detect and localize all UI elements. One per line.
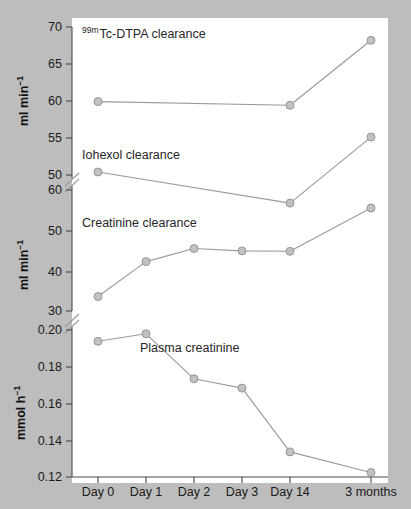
data-point bbox=[190, 245, 198, 253]
data-point bbox=[94, 293, 102, 301]
x-tick-day-3: Day 3 bbox=[226, 485, 259, 499]
data-point bbox=[94, 168, 102, 176]
data-point bbox=[367, 469, 375, 477]
y-ticks-bottom: 0.20 0.18 0.16 0.14 0.12 bbox=[38, 323, 72, 484]
y-tick-top-50: 50 bbox=[48, 168, 62, 182]
series-label-tc-dtpa: 99mTc-DTPA clearance bbox=[82, 25, 206, 41]
y-tick-top-60: 60 bbox=[48, 94, 62, 108]
y-axis-title-bottom: mmol h−1 bbox=[12, 386, 28, 440]
x-tick-day-2: Day 2 bbox=[178, 485, 211, 499]
series-label-creatinine-clearance: Creatinine clearance bbox=[82, 216, 197, 230]
y-ticks-middle: 60 50 40 30 bbox=[48, 183, 72, 318]
data-point bbox=[367, 36, 375, 44]
y-tick-bot-020: 0.20 bbox=[38, 323, 62, 337]
data-point bbox=[286, 448, 294, 456]
data-point bbox=[367, 204, 375, 212]
data-point bbox=[286, 247, 294, 255]
figure-root: 70 65 60 55 50 60 50 40 30 0.20 0.18 0. bbox=[0, 0, 411, 509]
svg-text:ml min−1: ml min−1 bbox=[15, 240, 31, 290]
y-tick-mid-40: 40 bbox=[48, 265, 62, 279]
data-point bbox=[238, 247, 246, 255]
y-tick-mid-50: 50 bbox=[48, 224, 62, 238]
data-point bbox=[190, 375, 198, 383]
data-point bbox=[142, 330, 150, 338]
y-axis-title-middle: ml min−1 bbox=[15, 240, 31, 290]
series-tc-dtpa bbox=[94, 36, 375, 109]
svg-text:mmol h−1: mmol h−1 bbox=[12, 386, 28, 440]
y-tick-top-65: 65 bbox=[48, 57, 62, 71]
series-iohexol bbox=[94, 133, 375, 207]
y-tick-bot-012: 0.12 bbox=[38, 470, 62, 484]
x-ticks: Day 0 Day 1 Day 2 Day 3 Day 14 3 months bbox=[82, 477, 397, 499]
y-tick-top-55: 55 bbox=[48, 131, 62, 145]
data-point bbox=[94, 337, 102, 345]
y-tick-bot-014: 0.14 bbox=[38, 434, 62, 448]
series-tc-dtpa-line bbox=[98, 40, 371, 105]
y-ticks-top: 70 65 60 55 50 bbox=[48, 20, 72, 182]
x-tick-day-0: Day 0 bbox=[82, 485, 115, 499]
data-point bbox=[367, 133, 375, 141]
data-point bbox=[286, 199, 294, 207]
data-point bbox=[238, 384, 246, 392]
y-axis-title-top: ml min−1 bbox=[15, 76, 31, 126]
x-tick-day-1: Day 1 bbox=[130, 485, 163, 499]
y-tick-mid-60: 60 bbox=[48, 183, 62, 197]
y-tick-bot-016: 0.16 bbox=[38, 397, 62, 411]
series-label-tc-dtpa-sup: 99m bbox=[82, 25, 99, 35]
svg-text:ml min−1: ml min−1 bbox=[15, 76, 31, 126]
x-tick-3-months: 3 months bbox=[345, 485, 396, 499]
y-axis-title-top-text: ml min bbox=[17, 86, 31, 126]
series-label-iohexol: Iohexol clearance bbox=[82, 148, 180, 162]
y-tick-mid-30: 30 bbox=[48, 304, 62, 318]
y-tick-bot-018: 0.18 bbox=[38, 360, 62, 374]
y-axis-title-bottom-text: mmol h bbox=[14, 396, 28, 440]
data-point bbox=[94, 98, 102, 106]
x-tick-day-14: Day 14 bbox=[270, 485, 310, 499]
series-label-plasma-creatinine: Plasma creatinine bbox=[140, 341, 239, 355]
series-iohexol-line bbox=[98, 137, 371, 203]
y-tick-top-70: 70 bbox=[48, 20, 62, 34]
y-axis-title-middle-text: ml min bbox=[17, 250, 31, 290]
data-point bbox=[286, 101, 294, 109]
data-point bbox=[142, 258, 150, 266]
series-label-tc-dtpa-main: Tc-DTPA clearance bbox=[100, 27, 206, 41]
axis-spines bbox=[72, 27, 388, 477]
chart-svg: 70 65 60 55 50 60 50 40 30 0.20 0.18 0. bbox=[0, 0, 411, 509]
